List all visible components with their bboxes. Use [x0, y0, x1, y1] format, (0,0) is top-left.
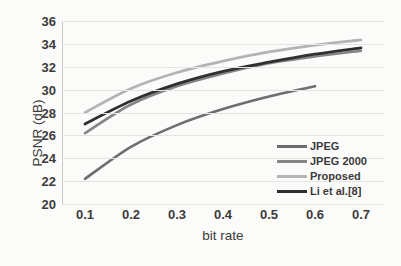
y-axis-tick-label: 22	[42, 174, 56, 189]
chart-figure: PSNR (dB) 363432302826242220 0.10.20.30.…	[0, 0, 401, 266]
y-axis-tick-label: 20	[42, 197, 56, 212]
gridline	[62, 44, 384, 45]
y-axis-tick-label: 24	[42, 151, 56, 166]
x-axis-tick-label: 0.2	[122, 207, 140, 222]
gridline	[62, 67, 384, 68]
gridline	[62, 21, 384, 22]
gridline	[62, 90, 384, 91]
legend-item: JPEG	[277, 139, 397, 154]
x-axis-tick-label: 0.5	[260, 207, 278, 222]
legend-swatch	[277, 145, 307, 148]
gridline	[62, 135, 384, 136]
y-axis-tick-label: 32	[42, 59, 56, 74]
x-axis-tick-label: 0.6	[306, 207, 324, 222]
legend-label: Proposed	[310, 171, 361, 182]
legend-swatch	[277, 175, 307, 178]
gridline	[62, 204, 384, 205]
x-axis-tick-label: 0.3	[168, 207, 186, 222]
x-axis-tick-label: 0.1	[76, 207, 94, 222]
y-axis-tick-labels: 363432302826242220	[0, 21, 56, 204]
y-axis-tick-label: 26	[42, 128, 56, 143]
y-axis-tick-label: 36	[42, 14, 56, 29]
legend-swatch	[277, 160, 307, 163]
x-axis-tick-labels: 0.10.20.30.40.50.60.7	[62, 207, 384, 227]
y-axis-tick-label: 34	[42, 36, 56, 51]
legend-swatch	[277, 190, 307, 193]
legend: JPEGJPEG 2000ProposedLi et al.[8]	[277, 139, 397, 199]
gridline	[62, 113, 384, 114]
x-axis-title: bit rate	[62, 228, 384, 243]
legend-item: Proposed	[277, 169, 397, 184]
legend-label: JPEG 2000	[310, 156, 367, 167]
y-axis-tick-label: 30	[42, 82, 56, 97]
x-axis-tick-label: 0.7	[352, 207, 370, 222]
legend-item: Li et al.[8]	[277, 184, 397, 199]
legend-label: Li et al.[8]	[310, 186, 361, 197]
legend-item: JPEG 2000	[277, 154, 397, 169]
x-axis-tick-label: 0.4	[214, 207, 232, 222]
legend-label: JPEG	[310, 141, 339, 152]
y-axis-tick-label: 28	[42, 105, 56, 120]
